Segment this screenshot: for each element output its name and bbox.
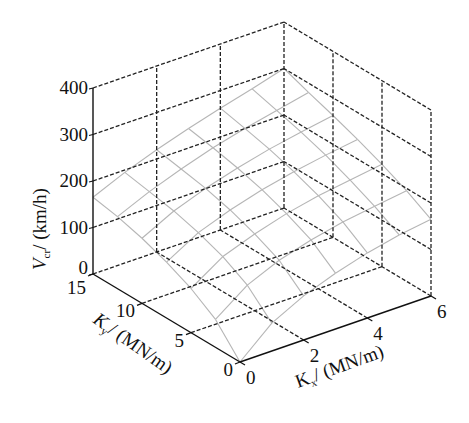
x-axis-title: Kx/ (MN/m)	[292, 340, 387, 393]
grid-line	[284, 69, 431, 157]
z-tick-label: 400	[60, 77, 89, 98]
surface-line	[174, 211, 199, 233]
surface-line	[125, 172, 149, 191]
surface-line	[343, 206, 375, 222]
surface-line	[301, 116, 333, 133]
surface-line	[262, 172, 294, 190]
surface-line	[223, 234, 255, 257]
y-tick-label: 15	[67, 277, 86, 298]
grid-line	[284, 208, 431, 296]
z-tick-label: 100	[60, 217, 89, 238]
surface-line	[93, 197, 118, 216]
z-tick-label: 200	[60, 170, 89, 191]
grid-line	[284, 162, 431, 250]
surface-line	[149, 169, 181, 192]
surface-line	[269, 132, 301, 149]
svg-text:Vcr/ (km/h): Vcr/ (km/h)	[29, 188, 52, 270]
x-tick	[240, 362, 245, 365]
surface-line	[206, 188, 231, 210]
axes	[88, 88, 436, 365]
surface-line	[294, 155, 326, 172]
surface-line	[375, 191, 407, 207]
surface-line	[167, 262, 192, 288]
y-tick	[186, 333, 191, 335]
x-tick	[431, 296, 436, 299]
y-tick	[235, 362, 240, 364]
x-tick-label: 6	[437, 301, 447, 322]
surface-line	[93, 172, 125, 197]
surface-line	[326, 155, 351, 180]
surface-line	[206, 168, 238, 188]
surface-line	[220, 89, 252, 108]
surface-line	[142, 211, 174, 238]
grid-lines	[93, 22, 431, 340]
surface-line	[247, 285, 272, 323]
z-axis-title: Vcr/ (km/h)	[29, 188, 52, 270]
surface-line	[252, 69, 284, 89]
surface-line	[269, 149, 294, 172]
surface-line	[238, 149, 270, 168]
surface-line	[311, 222, 343, 240]
surface-line	[198, 210, 230, 233]
z-tick-label: 0	[79, 257, 89, 278]
surface-line	[301, 132, 326, 155]
surface-line	[245, 128, 270, 149]
surface-line	[216, 319, 241, 362]
x-tick	[304, 340, 309, 343]
surface-line	[230, 190, 262, 210]
y-tick-label: 10	[116, 300, 135, 321]
surface-line	[189, 128, 214, 147]
surface-line	[318, 196, 343, 222]
surface-line	[255, 234, 279, 260]
grid-line	[284, 115, 431, 203]
surface-line	[189, 108, 221, 128]
surface-line	[174, 188, 206, 211]
y-tick	[137, 303, 142, 305]
surface-line	[247, 260, 279, 285]
surface-line	[277, 110, 302, 132]
surface-line	[213, 128, 245, 147]
surface-line	[167, 233, 199, 263]
surface-line	[287, 196, 319, 214]
z-tick-label: 300	[60, 124, 89, 145]
y-tick-label: 5	[175, 330, 185, 351]
surface-line	[318, 180, 350, 196]
surface-line	[350, 164, 382, 180]
surface-line	[262, 190, 287, 214]
surface-mesh	[93, 69, 431, 363]
x-tick	[367, 318, 372, 321]
surface-chart: 01002003004000510150246 Vcr/ (km/h) Ky/ …	[0, 0, 469, 423]
surface-line	[181, 148, 213, 169]
surface-line	[181, 169, 206, 188]
surface-line	[343, 222, 368, 253]
surface-line	[350, 180, 375, 206]
surface-line	[118, 217, 143, 239]
surface-line	[375, 206, 400, 235]
grid-line	[142, 237, 333, 303]
svg-text:Kx/ (MN/m): Kx/ (MN/m)	[292, 340, 387, 393]
surface-line	[326, 139, 358, 155]
x-tick-label: 0	[246, 367, 256, 388]
surface-line	[333, 116, 358, 140]
surface-line	[157, 150, 182, 169]
surface-line	[336, 253, 368, 273]
surface-line	[220, 108, 245, 128]
y-tick-label: 0	[224, 359, 234, 380]
x-axis-line	[240, 296, 431, 362]
surface-line	[191, 257, 223, 289]
surface-line	[238, 168, 263, 190]
surface-line	[277, 92, 309, 110]
surface-line	[309, 92, 334, 115]
surface-line	[191, 288, 216, 319]
surface-line	[252, 89, 276, 111]
surface-line	[213, 148, 238, 168]
surface-line	[157, 128, 189, 149]
surface-line	[311, 240, 336, 273]
surface-line	[367, 235, 399, 253]
grid-line	[284, 22, 431, 110]
